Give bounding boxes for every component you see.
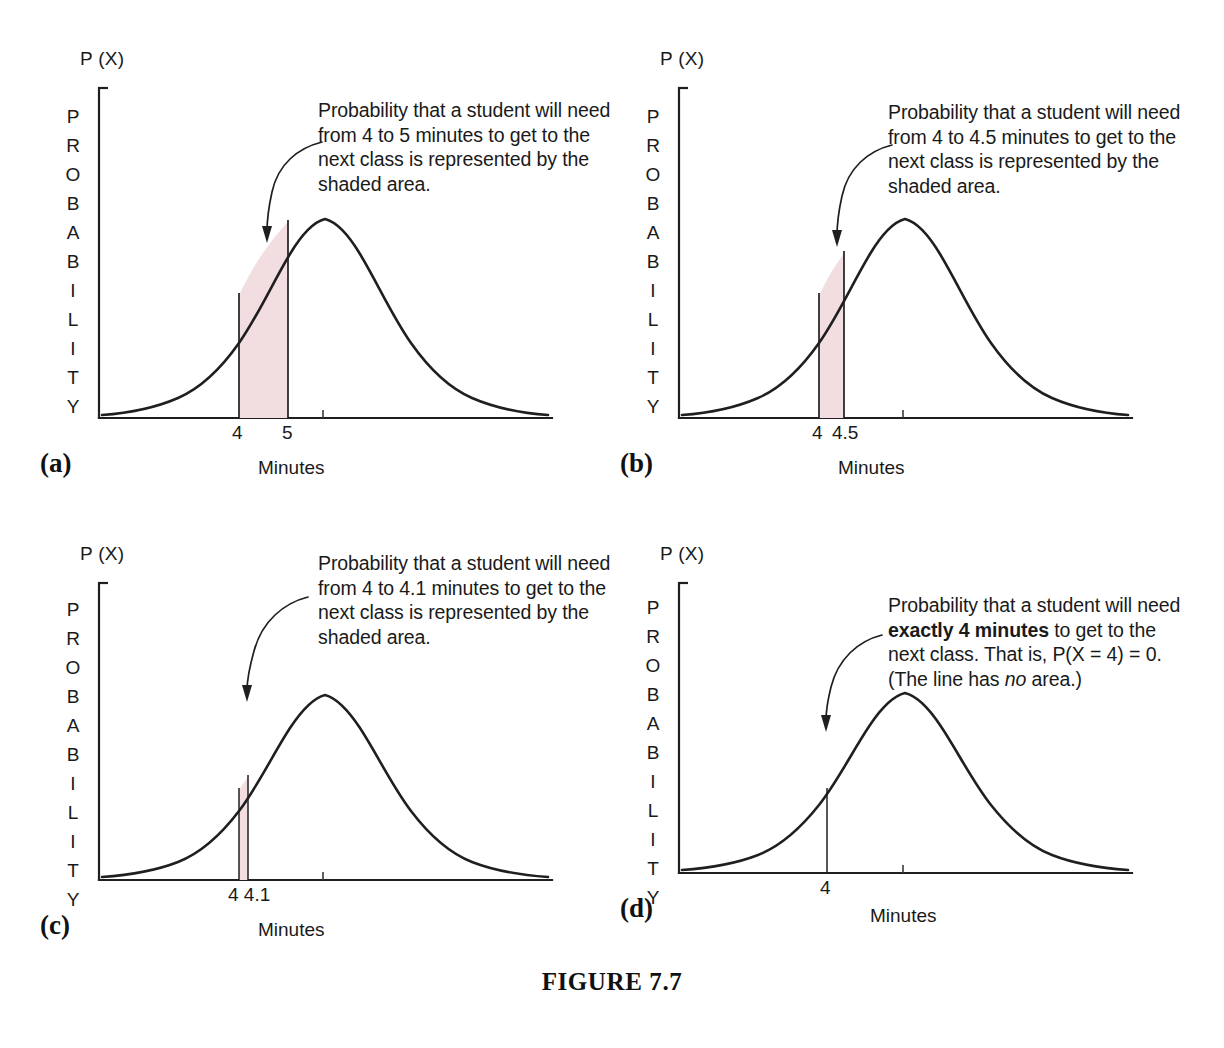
callout-arrowhead-d bbox=[821, 715, 831, 732]
y-axis-vertical-label-d: PROBABILITY bbox=[642, 593, 664, 912]
callout-text-b: Probability that a student will need fro… bbox=[888, 100, 1188, 198]
callout-b-line1: Probability that a student will need bbox=[888, 101, 1180, 123]
panel-b: P (X) PROBABILITY 4 4.5 Minutes Probabil… bbox=[620, 40, 1220, 530]
panel-label-a: (a) bbox=[40, 448, 71, 479]
callout-d-line2b: to get to the bbox=[1049, 619, 1156, 641]
tick-label-b-1: 4.5 bbox=[832, 422, 858, 444]
tick-label-a-1: 5 bbox=[282, 422, 293, 444]
y-axis-vertical-label-a: PROBABILITY bbox=[62, 102, 84, 421]
callout-arrow-d bbox=[826, 635, 882, 721]
normal-curve-d bbox=[682, 693, 1128, 870]
callout-text-c: Probability that a student will need fro… bbox=[318, 551, 618, 649]
callout-arrowhead-a bbox=[262, 226, 272, 243]
normal-curve-b bbox=[682, 219, 1128, 415]
tick-label-a-0: 4 bbox=[232, 422, 243, 444]
callout-d-line4a: (The line has bbox=[888, 668, 1005, 690]
callout-a-line2: from 4 to 5 minutes to get to the bbox=[318, 124, 590, 146]
panel-a: P (X) PROBABILITY 4 5 Minutes Probabilit… bbox=[40, 40, 640, 530]
y-axis-top-label-a: P (X) bbox=[80, 48, 124, 70]
callout-arrow-a bbox=[267, 142, 322, 232]
callout-d-line4b: area.) bbox=[1026, 668, 1082, 690]
callout-text-a: Probability that a student will need fro… bbox=[318, 98, 618, 196]
normal-curve-c bbox=[102, 695, 548, 877]
callout-b-line4: shaded area. bbox=[888, 175, 1001, 197]
panel-label-c: (c) bbox=[40, 910, 70, 941]
shaded-area-a bbox=[239, 222, 288, 418]
callout-d-bold: exactly 4 minutes bbox=[888, 619, 1049, 641]
callout-a-line3: next class is represented by the bbox=[318, 148, 589, 170]
callout-text-d: Probability that a student will need exa… bbox=[888, 593, 1188, 691]
panel-c: P (X) PROBABILITY 4 4.1 Minutes Probabil… bbox=[40, 535, 640, 1025]
callout-d-line3: next class. That is, P(X = 4) = 0. bbox=[888, 643, 1162, 665]
callout-c-line1: Probability that a student will need bbox=[318, 552, 610, 574]
callout-arrowhead-b bbox=[832, 230, 842, 247]
callout-arrow-c bbox=[247, 597, 308, 691]
callout-a-line1: Probability that a student will need bbox=[318, 99, 610, 121]
callout-d-line1: Probability that a student will need bbox=[888, 594, 1180, 616]
x-axis-title-d: Minutes bbox=[870, 905, 937, 927]
shaded-area-c bbox=[239, 777, 248, 880]
callout-arrow-b bbox=[837, 145, 892, 236]
x-axis-title-c: Minutes bbox=[258, 919, 325, 941]
panel-label-d: (d) bbox=[620, 893, 653, 924]
y-axis-vertical-label-b: PROBABILITY bbox=[642, 102, 664, 421]
figure-caption: FIGURE 7.7 bbox=[0, 968, 1224, 996]
callout-d-italic: no bbox=[1005, 668, 1027, 690]
tick-label-b-0: 4 bbox=[812, 422, 823, 444]
callout-b-line3: next class is represented by the bbox=[888, 150, 1159, 172]
callout-c-line2: from 4 to 4.1 minutes to get to the bbox=[318, 577, 606, 599]
callout-a-line4: shaded area. bbox=[318, 173, 431, 195]
x-axis-title-b: Minutes bbox=[838, 457, 905, 479]
panel-label-b: (b) bbox=[620, 448, 653, 479]
tick-label-c-joined: 4 4.1 bbox=[228, 884, 270, 906]
callout-c-line3: next class is represented by the bbox=[318, 601, 589, 623]
y-axis-top-label-b: P (X) bbox=[660, 48, 704, 70]
tick-label-d-0: 4 bbox=[820, 877, 831, 899]
y-axis-top-label-c: P (X) bbox=[80, 543, 124, 565]
callout-arrowhead-c bbox=[242, 685, 252, 702]
callout-b-line2: from 4 to 4.5 minutes to get to the bbox=[888, 126, 1176, 148]
y-axis-vertical-label-c: PROBABILITY bbox=[62, 595, 84, 914]
callout-c-line4: shaded area. bbox=[318, 626, 431, 648]
panel-d: P (X) PROBABILITY 4 Minutes Probability … bbox=[620, 535, 1220, 1025]
y-axis-top-label-d: P (X) bbox=[660, 543, 704, 565]
x-axis-title-a: Minutes bbox=[258, 457, 325, 479]
normal-curve-a bbox=[102, 219, 548, 415]
